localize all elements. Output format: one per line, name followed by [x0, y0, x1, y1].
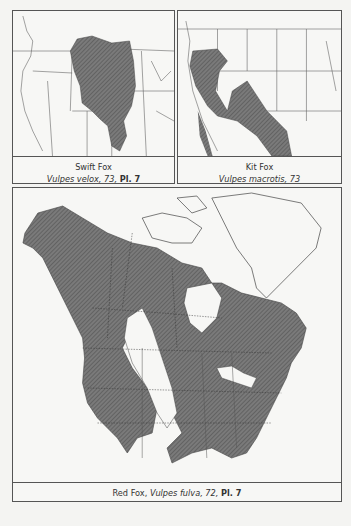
- common-name: Red Fox: [113, 488, 145, 498]
- kit-fox-range-map: [178, 11, 341, 157]
- swift-fox-range-map: [13, 11, 174, 157]
- page-reference: , 73: [285, 174, 301, 184]
- page-reference: , 73,: [99, 174, 120, 184]
- scientific-name: Vulpes velox: [47, 174, 99, 184]
- red-fox-caption: Red Fox, Vulpes fulva, 72, Pl. 7: [13, 483, 341, 501]
- red-fox-map-panel: Red Fox, Vulpes fulva, 72, Pl. 7: [12, 187, 342, 502]
- scientific-name: Vulpes macrotis: [219, 174, 285, 184]
- common-name: Swift Fox: [13, 161, 174, 173]
- page-reference: , 72,: [200, 488, 221, 498]
- scientific-name: Vulpes fulva: [150, 488, 200, 498]
- plate-reference: Pl. 7: [221, 488, 241, 498]
- swift-fox-map-panel: Swift Fox Vulpes velox, 73, Pl. 7: [12, 10, 175, 184]
- kit-fox-map-panel: Kit Fox Vulpes macrotis, 73: [177, 10, 342, 184]
- kit-fox-caption: Kit Fox Vulpes macrotis, 73: [178, 157, 341, 183]
- swift-fox-caption: Swift Fox Vulpes velox, 73, Pl. 7: [13, 157, 174, 183]
- red-fox-range-map: [13, 188, 341, 483]
- plate-reference: Pl. 7: [120, 174, 140, 184]
- common-name: Kit Fox: [178, 161, 341, 173]
